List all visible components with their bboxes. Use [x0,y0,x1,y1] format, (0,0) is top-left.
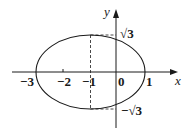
y-axis-arrow-icon [113,9,119,18]
y-axis-label: y [102,4,110,19]
x-axis-label: x [174,73,181,88]
x-tick-label-neg2: −2 [57,74,71,89]
y-tick-label-neg-sqrt3: −√3 [121,103,143,118]
x-tick-label-1: 1 [146,74,153,89]
ellipse-diagram: y x −3 −2 −1 0 1 √3 −√3 [0,0,196,132]
x-tick-label-neg3: −3 [20,74,34,89]
y-tick-label-sqrt3: √3 [120,26,134,41]
x-tick-label-neg1: −1 [82,74,96,89]
origin-label: 0 [118,74,125,89]
